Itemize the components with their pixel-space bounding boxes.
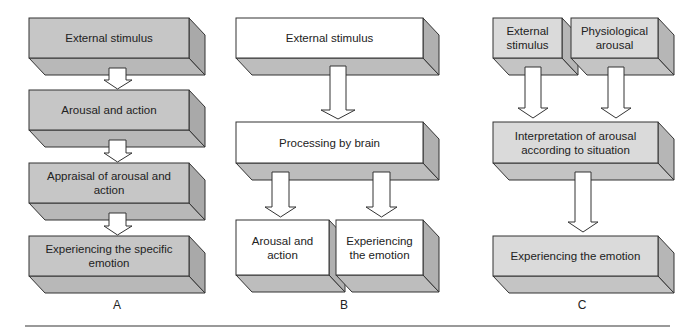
- panel-c-box-experiencing-emotion: Experiencing the emotion: [493, 236, 658, 276]
- panel-a-box-experiencing-emotion: Experiencing the specific emotion: [32, 236, 186, 276]
- bottom-rule: [25, 325, 670, 327]
- panel-label-a: A: [107, 298, 127, 312]
- panel-label-c: C: [572, 298, 592, 312]
- panel-a-box-arousal-action: Arousal and action: [29, 90, 189, 130]
- panel-c-box-physiological-arousal: Physiological arousal: [575, 18, 654, 58]
- panel-b-box-arousal-action: Arousal and action: [246, 220, 319, 275]
- panel-c-box-external-stimulus: External stimulus: [495, 18, 560, 58]
- panel-b-box-processing-brain: Processing by brain: [236, 122, 423, 163]
- panel-a-box-external-stimulus: External stimulus: [29, 18, 189, 58]
- panel-b-box-experiencing-emotion: Experiencing the emotion: [341, 220, 418, 275]
- panel-c-box-interpretation: Interpretation of arousal according to s…: [505, 122, 646, 163]
- panel-a-box-appraisal: Appraisal of arousal and action: [44, 163, 174, 203]
- panel-b-box-external-stimulus: External stimulus: [236, 18, 423, 58]
- panel-label-b: B: [334, 298, 354, 312]
